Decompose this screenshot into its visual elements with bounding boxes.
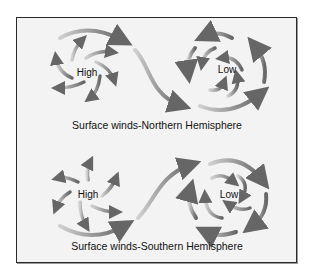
nh-high-arrows [56, 30, 122, 98]
nh-low-label: Low [218, 64, 236, 75]
nh-caption: Surface winds-Northern Hemisphere [72, 119, 242, 131]
wind-diagram-art [0, 0, 313, 277]
sh-low-label: Low [220, 189, 238, 200]
sh-connector-arrow [138, 165, 190, 218]
sh-high-label: High [78, 189, 99, 200]
nh-high-label: High [77, 67, 98, 78]
sh-caption: Surface winds-Southern Hemisphere [71, 240, 243, 252]
nh-connector-arrow [135, 50, 180, 105]
